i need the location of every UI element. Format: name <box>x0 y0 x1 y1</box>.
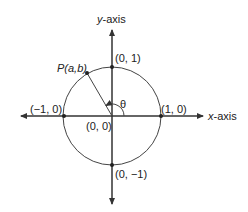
unit-circle-diagram: y-axis x-axis (0, 1) (0, −1) (1, 0) (−1,… <box>0 0 248 212</box>
point-pos-y <box>110 65 114 69</box>
label-point-p: P(a,b) <box>57 62 87 74</box>
label-neg-x: (−1, 0) <box>30 103 62 115</box>
label-theta: θ <box>120 98 126 110</box>
point-neg-x <box>62 114 66 118</box>
label-origin: (0, 0) <box>86 120 112 132</box>
y-axis-label: y-axis <box>96 13 126 25</box>
x-axis-label: x-axis <box>207 110 237 122</box>
radius-segment <box>87 73 112 116</box>
label-pos-y: (0, 1) <box>115 52 141 64</box>
label-pos-x: (1, 0) <box>161 103 187 115</box>
label-neg-y: (0, −1) <box>115 168 147 180</box>
point-neg-y <box>110 163 114 167</box>
